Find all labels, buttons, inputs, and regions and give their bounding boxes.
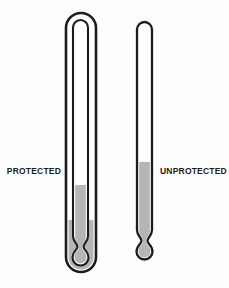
protected-label: PROTECTED — [4, 166, 61, 176]
unprotected-thermometer — [137, 22, 153, 260]
protected-thermometer — [66, 13, 96, 272]
thermometer-diagram: PROTECTED UNPROTECTED — [0, 0, 229, 288]
unprotected-label: UNPROTECTED — [160, 166, 227, 176]
thermometers-illustration — [0, 0, 229, 288]
